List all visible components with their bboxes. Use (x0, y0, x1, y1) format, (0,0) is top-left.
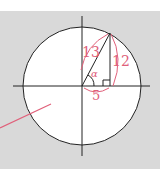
top-margin (0, 0, 160, 11)
hypotenuse-label: 13 (82, 44, 100, 60)
angle-label: α (91, 68, 98, 79)
adjacent-label: 5 (92, 88, 100, 103)
diagram-canvas: 13 12 5 α (0, 0, 160, 169)
opposite-label: 12 (112, 53, 130, 69)
